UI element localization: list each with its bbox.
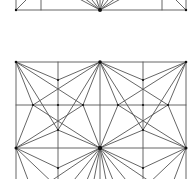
vertex-node: [98, 60, 102, 64]
vertex-node: [185, 147, 188, 150]
vertex-node: [142, 104, 144, 106]
vertex-node: [167, 104, 169, 106]
vertex-node: [117, 104, 119, 106]
vertex-node: [15, 147, 18, 150]
vertex-node: [57, 129, 59, 131]
vertex-node: [57, 79, 59, 81]
vertex-node: [98, 8, 102, 12]
tiling-diagram: [0, 0, 196, 179]
vertex-node: [82, 104, 84, 106]
vertex-node: [98, 146, 102, 150]
vertex-node: [185, 61, 188, 64]
vertex-node: [57, 167, 59, 169]
vertex-node: [142, 167, 144, 169]
vertex-node: [57, 104, 59, 106]
vertex-node: [15, 9, 17, 11]
vertex-node: [142, 79, 144, 81]
vertex-node: [185, 9, 187, 11]
vertex-node: [32, 104, 34, 106]
vertex-node: [142, 129, 144, 131]
vertex-node: [15, 61, 18, 64]
